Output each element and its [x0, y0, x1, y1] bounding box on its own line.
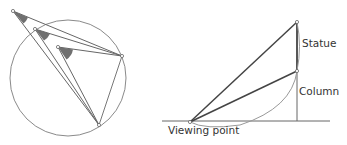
viewing-point-label: Viewing point: [168, 124, 239, 136]
point-marker: [56, 45, 59, 48]
angle-wedge-2: [35, 29, 50, 41]
inscribed-angle-figure: [10, 9, 126, 136]
column-label: Column: [299, 85, 339, 97]
point-marker: [33, 27, 36, 30]
point-marker: [97, 123, 100, 126]
sightline-statue-top: [190, 22, 297, 122]
point-marker: [120, 54, 123, 57]
sightline-column-top: [190, 71, 297, 122]
tangent-circle-arc: [190, 22, 300, 127]
point-marker: [295, 20, 298, 23]
point-marker: [11, 9, 14, 12]
statue-label: Statue: [302, 37, 336, 49]
point-marker: [295, 69, 298, 72]
chord: [99, 56, 122, 125]
